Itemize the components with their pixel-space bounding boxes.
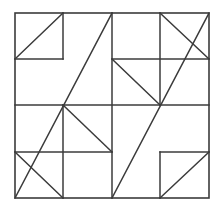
quilt-pattern-figure <box>0 0 223 211</box>
pattern-canvas <box>0 0 223 211</box>
